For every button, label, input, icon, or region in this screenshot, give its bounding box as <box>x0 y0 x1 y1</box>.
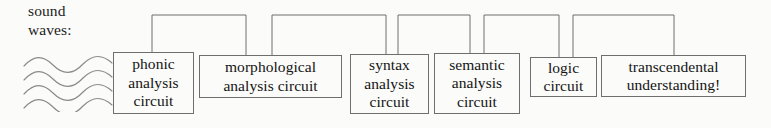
box-label: transcendental understanding! <box>602 58 745 95</box>
box-label: morphological analysis circuit <box>200 58 341 95</box>
box-transcendental-understanding[interactable]: transcendental understanding! <box>601 55 746 97</box>
connector-morphological-to-syntax <box>272 15 386 55</box>
sound-wave-line <box>24 56 112 72</box>
box-label: semantic analysis circuit <box>435 56 519 112</box>
box-label: logic circuit <box>531 59 596 96</box>
box-label: phonic analysis circuit <box>114 55 193 111</box>
box-semantic-analysis-circuit[interactable]: semantic analysis circuit <box>434 53 520 114</box>
diagram-canvas: sound waves: phonic analysis circuit mor… <box>0 0 771 128</box>
connector-syntax-to-semantic <box>398 15 470 54</box>
box-syntax-analysis-circuit[interactable]: syntax analysis circuit <box>350 54 429 114</box>
box-phonic-analysis-circuit[interactable]: phonic analysis circuit <box>113 52 194 114</box>
box-logic-circuit[interactable]: logic circuit <box>530 57 597 97</box>
sound-waves-label: sound waves: <box>28 1 118 39</box>
connector-semantic-to-logic <box>484 15 559 57</box>
box-label: syntax analysis circuit <box>351 56 428 112</box>
connector-phonic-to-morphological <box>152 15 246 55</box>
box-morphological-analysis-circuit[interactable]: morphological analysis circuit <box>199 55 342 98</box>
sound-wave-lines <box>22 56 114 112</box>
connector-logic-to-transcendental <box>573 15 674 57</box>
